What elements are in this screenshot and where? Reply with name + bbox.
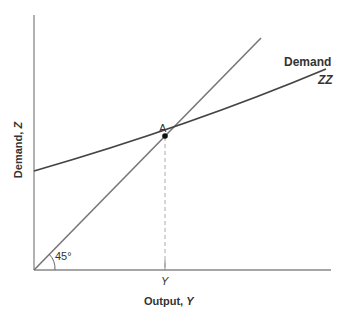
curve-label-demand: Demand: [284, 55, 331, 69]
equilibrium-point-a: [162, 133, 168, 139]
x-axis-var: Y: [186, 295, 193, 307]
curve-label-zz: ZZ: [318, 73, 333, 87]
x-axis-title-text: Output,: [144, 295, 186, 307]
y-axis-var: Z: [12, 122, 24, 129]
diagram-canvas: [0, 0, 349, 320]
point-label-a: A: [159, 122, 166, 134]
x-tick-label: Y: [161, 275, 168, 287]
forty-five-degree-line: [34, 38, 261, 270]
x-axis-title: Output, Y: [144, 295, 194, 307]
y-axis-title: Demand, Z: [12, 115, 24, 185]
angle-label: 45°: [55, 250, 72, 262]
y-axis-title-text: Demand,: [12, 129, 24, 179]
